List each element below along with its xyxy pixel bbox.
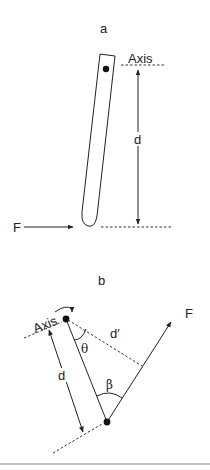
panel-b-label: b	[98, 273, 105, 288]
axis-label-b: Axis	[31, 313, 60, 336]
force-point-dashed-line	[53, 424, 102, 453]
lever-arm-line	[66, 319, 107, 422]
theta-label: θ	[81, 342, 88, 356]
panel-b: b Axis d′ θ F β d	[24, 273, 193, 453]
perpendicular-distance-label: d′	[110, 326, 120, 341]
panel-a-label: a	[100, 21, 108, 36]
panel-a: a Axis d F	[13, 21, 171, 235]
pivot-dot	[103, 66, 109, 72]
rod	[82, 54, 115, 226]
pivot-dot-b	[63, 316, 70, 323]
rotation-arrow-icon	[55, 307, 72, 312]
beta-arc	[97, 393, 122, 398]
distance-label-a: d	[134, 132, 141, 147]
force-label-a: F	[13, 220, 21, 235]
axis-label-a: Axis	[128, 51, 153, 66]
beta-label: β	[106, 378, 113, 392]
lever-torque-diagram: a Axis d F b Axis d′ θ F	[0, 0, 210, 470]
perpendicular-distance-line	[68, 320, 142, 366]
force-label-b: F	[185, 306, 193, 321]
distance-label-b: d	[58, 368, 65, 383]
